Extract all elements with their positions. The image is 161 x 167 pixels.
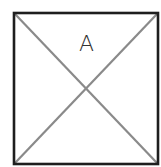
- box-label: A: [79, 31, 94, 56]
- crossed-box-diagram: A: [0, 0, 161, 167]
